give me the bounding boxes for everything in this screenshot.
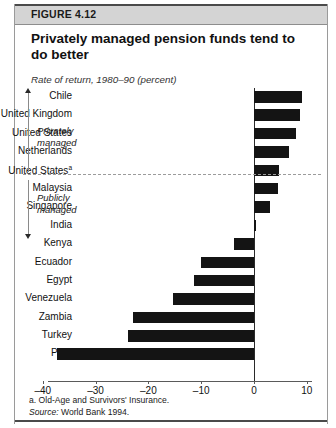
source-prefix: Source: xyxy=(29,407,59,417)
x-axis-tick xyxy=(307,381,308,384)
x-axis-tick xyxy=(148,381,149,384)
table-row: Ecuador xyxy=(15,254,329,272)
bar xyxy=(254,220,256,232)
figure-source: Source: World Bank 1994. xyxy=(29,407,129,417)
bottom-rule xyxy=(15,420,327,422)
bar-category-label: Egypt xyxy=(0,274,76,285)
x-axis-line xyxy=(48,381,312,382)
x-axis-tick xyxy=(201,381,202,384)
bar-category-label: Chile xyxy=(0,90,76,101)
publicly-managed-label-line2: managed xyxy=(37,204,77,215)
bar xyxy=(57,348,254,360)
table-row: Kenya xyxy=(15,235,329,253)
table-row: Chile xyxy=(15,88,329,106)
bar-category-label: Ecuador xyxy=(0,256,76,267)
bar-category-label: United Kingdom xyxy=(0,108,76,119)
publicly-managed-axis xyxy=(28,180,29,235)
publicly-managed-label-line1: Publicly xyxy=(37,192,70,203)
x-axis-tick-label: 10 xyxy=(301,385,312,396)
table-row: India xyxy=(15,217,329,235)
table-row: Egypt xyxy=(15,272,329,290)
figure-card: FIGURE 4.12 Privately managed pension fu… xyxy=(14,4,328,424)
privately-managed-label: Privately managed xyxy=(37,125,77,148)
figure-number: FIGURE 4.12 xyxy=(31,8,96,20)
privately-managed-axis xyxy=(28,92,29,172)
bar xyxy=(254,128,296,140)
bar-category-label: Venezuela xyxy=(0,292,76,303)
bar xyxy=(254,109,300,121)
x-axis-tick xyxy=(254,381,255,384)
bar-category-label: Turkey xyxy=(0,329,76,340)
bar xyxy=(133,312,254,324)
bar xyxy=(128,330,254,342)
bar-category-label: Zambia xyxy=(0,311,76,322)
bar xyxy=(194,275,254,287)
bar xyxy=(254,146,289,158)
bar xyxy=(201,257,254,269)
x-axis-tick-label: 0 xyxy=(251,385,257,396)
table-row: Peru xyxy=(15,345,329,363)
x-axis-tick xyxy=(96,381,97,384)
bar xyxy=(254,183,278,195)
table-row: Turkey xyxy=(15,327,329,345)
privately-managed-arrow-up-icon xyxy=(25,88,31,93)
chart-plot-area: ChileUnited KingdomUnited StatesNetherla… xyxy=(15,88,329,388)
table-row: United Kingdom xyxy=(15,106,329,124)
bar xyxy=(173,293,254,305)
table-row: Venezuela xyxy=(15,290,329,308)
group-divider xyxy=(23,174,321,175)
bar-category-label: Kenya xyxy=(0,237,76,248)
privately-managed-label-line2: managed xyxy=(37,137,77,148)
figure-subtitle: Rate of return, 1980–90 (percent) xyxy=(31,74,176,85)
publicly-managed-label: Publicly managed xyxy=(37,192,77,215)
figure-title: Privately managed pension funds tend to … xyxy=(31,31,313,62)
bar xyxy=(254,91,302,103)
publicly-managed-arrow-down-icon xyxy=(25,234,31,239)
bar xyxy=(254,201,270,213)
bar-category-label: India xyxy=(0,219,76,230)
table-row: Zambia xyxy=(15,309,329,327)
x-axis-tick-label: –10 xyxy=(193,385,210,396)
footnote-marker: a xyxy=(68,164,72,171)
source-text: World Bank 1994. xyxy=(61,407,129,417)
x-axis-tick xyxy=(43,381,44,384)
figure-footnote: a. Old-Age and Survivors' Insurance. xyxy=(29,395,169,405)
table-row: United Statesa xyxy=(15,162,329,180)
bar xyxy=(234,238,254,250)
privately-managed-label-line1: Privately xyxy=(37,125,73,136)
